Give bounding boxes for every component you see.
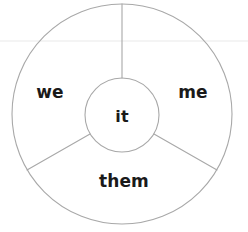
pronoun-wheel-diagram: we me them it bbox=[0, 0, 248, 232]
hub-label-it: it bbox=[115, 109, 128, 125]
spoke-lower-right bbox=[154, 134, 217, 170]
sector-label-me: me bbox=[178, 84, 207, 101]
sector-label-we: we bbox=[36, 84, 63, 101]
sector-label-them: them bbox=[99, 173, 149, 190]
spoke-lower-left bbox=[27, 134, 90, 170]
